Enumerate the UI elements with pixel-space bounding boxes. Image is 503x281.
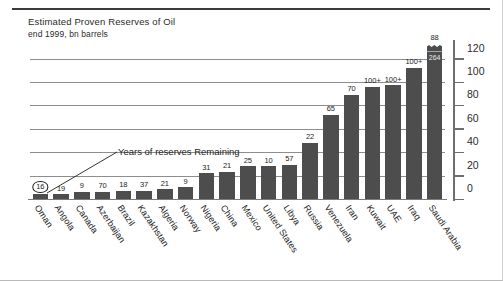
y-tick-label-0: 0: [467, 182, 473, 194]
bar-years-label: 57: [285, 154, 293, 163]
x-label-iran: Iran: [344, 203, 361, 222]
bar-years-label: 10: [264, 156, 272, 165]
x-label-iraq: Iraq: [406, 203, 423, 222]
y-tick-0: [453, 199, 464, 201]
header-rule: [12, 8, 490, 10]
y-tick-80: [453, 105, 464, 107]
bar-venezuela: 65: [323, 115, 338, 200]
bar-years-label: 25: [244, 156, 252, 165]
bar-years-label: 21: [223, 161, 231, 170]
bar-years-label: 9: [80, 181, 84, 190]
gridline-120: [30, 59, 445, 60]
gridline-60: [30, 129, 445, 130]
title-block: Estimated Proven Reserves of Oil end 199…: [28, 16, 175, 40]
x-label-uae: UAE: [385, 203, 404, 224]
chart-title: Estimated Proven Reserves of Oil: [28, 16, 175, 28]
bar-years-label: 22: [306, 132, 314, 141]
bar-value-inside: 264: [429, 54, 441, 61]
y-tick-label-120: 120: [467, 42, 485, 54]
y-tick-label-100: 100: [467, 65, 485, 77]
bar-years-label: 70: [347, 84, 355, 93]
bar-mexico: 25: [240, 166, 255, 200]
y-tick-label-60: 60: [467, 112, 479, 124]
bar-years-label: 21: [161, 179, 169, 188]
bar-years-label: 19: [57, 184, 65, 193]
bar-years-label: 31: [202, 163, 210, 172]
bar-uae: 100+: [385, 85, 400, 200]
annotation-label: Years of reserves Remaining: [118, 146, 240, 157]
x-label-china: China: [219, 203, 241, 229]
bar-saudi-arabia: 26488: [427, 52, 442, 200]
bar-years-label: 100+: [405, 57, 422, 66]
bar-united-states: 10: [261, 166, 276, 200]
y-tick-40: [453, 152, 464, 154]
bar-china: 21: [219, 172, 234, 200]
y-tick-label-40: 40: [467, 135, 479, 147]
bar-nigeria: 31: [199, 173, 214, 200]
x-label-libya: Libya: [281, 203, 302, 227]
bar-years-label: 65: [327, 104, 335, 113]
y-tick-120: [453, 58, 464, 60]
y-axis: 020406080100120: [445, 48, 501, 200]
bar-iran: 70: [344, 95, 359, 200]
bar-russia: 22: [302, 143, 317, 200]
y-axis-spine: [453, 40, 455, 201]
x-label-saudi-arabia: Saudi Arabia: [427, 203, 465, 252]
bar-years-label: 70: [98, 181, 106, 190]
chart-subtitle: end 1999, bn barrels: [28, 29, 175, 40]
y-tick-100: [453, 82, 464, 84]
bar-years-label: 100+: [364, 76, 381, 85]
chart-figure: Estimated Proven Reserves of Oil end 199…: [0, 0, 503, 281]
y-tick-label-80: 80: [467, 88, 479, 100]
gridline-20: [30, 176, 445, 177]
y-tick-60: [453, 128, 464, 130]
bar-libya: 57: [282, 165, 297, 200]
bar-years-label: 16: [33, 181, 48, 192]
y-tick-20: [453, 175, 464, 177]
bar-years-label: 100+: [385, 75, 402, 84]
x-label-brazil: Brazil: [115, 203, 136, 228]
bar-years-label: 9: [184, 177, 188, 186]
y-tick-label-20: 20: [467, 159, 479, 171]
x-label-oman: Oman: [32, 203, 54, 229]
gridline-80: [30, 105, 445, 106]
gridline-100: [30, 82, 445, 83]
bar-break-cap: [427, 45, 442, 52]
x-axis-baseline: [28, 199, 447, 201]
bar-iraq: 100+: [406, 68, 421, 200]
bar-years-label: 18: [119, 180, 127, 189]
bar-years-label: 88: [430, 33, 438, 42]
plot-area: 161997018372193121251057226570100+100+10…: [30, 48, 445, 200]
bar-years-label: 37: [140, 180, 148, 189]
bar-kuwait: 100+: [365, 87, 380, 200]
